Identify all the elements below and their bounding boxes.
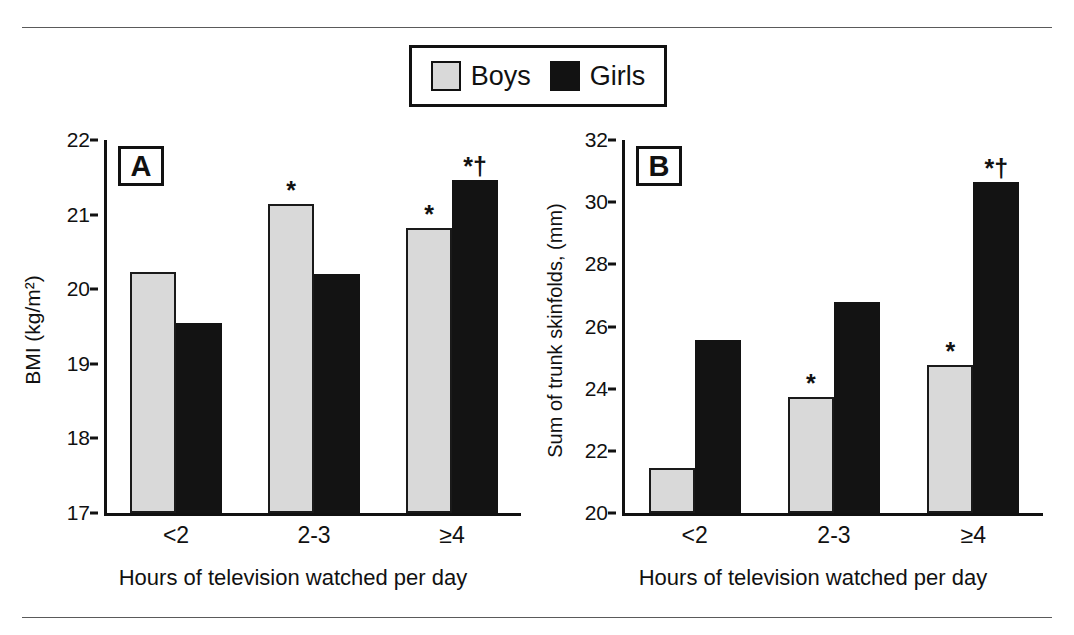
legend-label-girls: Girls: [590, 61, 646, 92]
chart-legend: Boys Girls: [409, 45, 667, 107]
bar-boys-0: [649, 468, 695, 513]
panel-a-y-axis-title: BMI (kg/m²): [18, 140, 48, 520]
y-tick-mark: [90, 139, 98, 142]
boys-swatch-icon: [431, 61, 461, 91]
y-tick-mark: [90, 512, 98, 515]
y-tick-mark: [90, 362, 98, 365]
bar-group: **†: [383, 140, 521, 513]
panel-a-x-axis-title: Hours of television watched per day: [58, 565, 528, 591]
bar-boys-1: *: [788, 397, 834, 513]
y-tick-mark: [90, 213, 98, 216]
bar-boys-0: [130, 272, 176, 513]
panel-a-bar-groups: ***†: [107, 140, 521, 513]
panel-a-plot-area: ***†: [107, 140, 521, 513]
y-tick-label: 28: [585, 252, 608, 276]
x-tick-label: ≥4: [383, 522, 521, 549]
y-tick-mark: [608, 325, 616, 328]
panel-a: BMI (kg/m²) 171819202122 ***† A <22-3≥4 …: [18, 140, 543, 610]
y-tick-mark: [608, 387, 616, 390]
x-tick-label: ≥4: [904, 522, 1043, 549]
y-tick-mark: [608, 201, 616, 204]
bar-boys-2: *: [406, 228, 452, 513]
bar-group: [625, 140, 764, 513]
y-tick-label: 19: [67, 352, 90, 376]
bar-group: *: [245, 140, 383, 513]
panel-b-x-axis-line: [622, 513, 1043, 516]
bar-group: [107, 140, 245, 513]
x-tick-label: 2-3: [764, 522, 903, 549]
panel-b-y-ticks: 20222426283032: [564, 140, 616, 520]
y-tick-label: 22: [585, 439, 608, 463]
bar-boys-2: *: [927, 365, 973, 513]
x-tick-label: 2-3: [245, 522, 383, 549]
y-tick-label: 24: [585, 377, 608, 401]
top-divider-rule: [22, 27, 1052, 28]
bar-girls-0: [176, 323, 222, 513]
y-tick-mark: [90, 437, 98, 440]
bottom-divider-rule: [22, 617, 1052, 618]
y-tick-label: 30: [585, 190, 608, 214]
y-tick-label: 32: [585, 128, 608, 152]
panel-b-x-tick-labels: <22-3≥4: [625, 522, 1043, 549]
significance-annotation: *: [806, 371, 816, 396]
y-tick-label: 20: [585, 501, 608, 525]
y-tick-label: 20: [67, 277, 90, 301]
significance-annotation: *: [945, 339, 955, 364]
legend-entry-boys: Boys: [431, 61, 531, 92]
panel-b-tag: B: [636, 146, 682, 186]
panel-a-tag: A: [118, 146, 164, 186]
y-tick-mark: [608, 512, 616, 515]
bar-group: *: [764, 140, 903, 513]
y-tick-label: 18: [67, 426, 90, 450]
bar-girls-2: *†: [452, 180, 498, 513]
bar-group: **†: [904, 140, 1043, 513]
significance-annotation: *: [424, 202, 434, 227]
significance-annotation: *†: [984, 156, 1008, 181]
y-tick-label: 21: [67, 203, 90, 227]
y-tick-label: 22: [67, 128, 90, 152]
panel-b: Sum of trunk skinfolds, (mm) 20222426283…: [540, 140, 1065, 610]
y-tick-label: 26: [585, 315, 608, 339]
bar-girls-1: [834, 302, 880, 513]
significance-annotation: *†: [463, 154, 487, 179]
x-tick-label: <2: [625, 522, 764, 549]
y-tick-mark: [608, 139, 616, 142]
y-tick-mark: [608, 449, 616, 452]
panel-a-x-axis-line: [104, 513, 521, 516]
panel-b-plot-area: ***†: [625, 140, 1043, 513]
y-tick-label: 17: [67, 501, 90, 525]
x-tick-label: <2: [107, 522, 245, 549]
girls-swatch-icon: [550, 61, 580, 91]
significance-annotation: *: [286, 178, 296, 203]
bar-girls-0: [695, 340, 741, 513]
panel-b-x-axis-title: Hours of television watched per day: [576, 565, 1050, 591]
panel-b-bar-groups: ***†: [625, 140, 1043, 513]
panel-a-x-tick-labels: <22-3≥4: [107, 522, 521, 549]
legend-label-boys: Boys: [471, 61, 531, 92]
bar-girls-1: [314, 274, 360, 513]
y-tick-mark: [90, 288, 98, 291]
legend-entry-girls: Girls: [550, 61, 646, 92]
panel-a-y-ticks: 171819202122: [46, 140, 98, 520]
bar-boys-1: *: [268, 204, 314, 513]
y-tick-mark: [608, 263, 616, 266]
bar-girls-2: *†: [973, 182, 1019, 513]
